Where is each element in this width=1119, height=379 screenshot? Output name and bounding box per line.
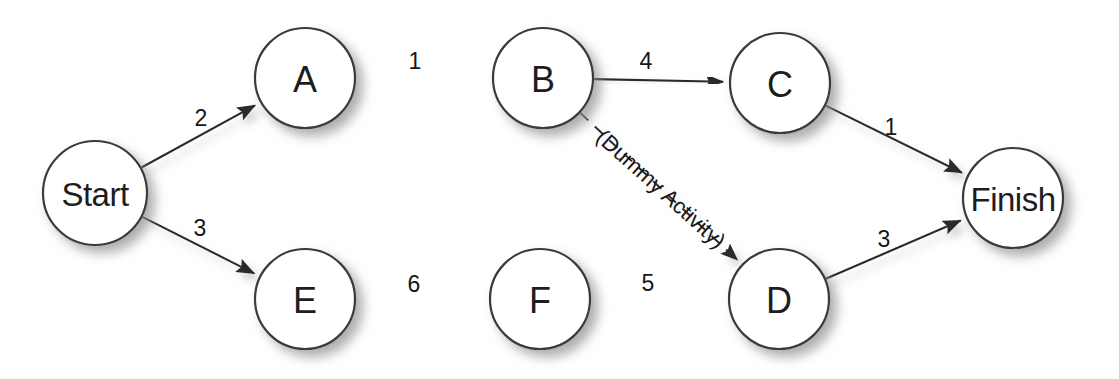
node-label-start: Start <box>61 176 129 213</box>
network-diagram: StartABCEFDFinish 21413653(Dummy Activit… <box>0 0 1119 379</box>
node-finish[interactable]: Finish <box>963 148 1063 248</box>
node-b[interactable]: B <box>493 28 593 128</box>
node-a[interactable]: A <box>255 28 355 128</box>
edge-label-f-d: 5 <box>642 270 655 296</box>
node-label-d: D <box>766 280 792 321</box>
node-e[interactable]: E <box>255 249 355 349</box>
node-label-finish: Finish <box>970 181 1055 218</box>
edge-line-b-c <box>594 79 723 82</box>
diagram-canvas: StartABCEFDFinish 21413653(Dummy Activit… <box>0 0 1119 379</box>
node-d[interactable]: D <box>729 249 829 349</box>
node-label-a: A <box>293 59 317 100</box>
node-label-c: C <box>767 64 793 105</box>
edge-label-b-c: 4 <box>640 48 653 74</box>
edge-label-start-e: 3 <box>194 215 207 241</box>
node-start[interactable]: Start <box>43 141 147 245</box>
edge-label-c-finish: 1 <box>885 114 898 140</box>
edge-b-c <box>594 79 723 82</box>
node-label-f: F <box>529 280 551 321</box>
edge-label-a-b: 1 <box>409 48 422 74</box>
edge-d-finish <box>826 221 961 279</box>
edge-label-b-d: (Dummy Activity) <box>591 125 730 254</box>
edge-label-e-f: 6 <box>408 271 421 297</box>
edge-label-start-a: 2 <box>195 105 208 131</box>
node-c[interactable]: C <box>730 33 830 133</box>
node-label-b: B <box>531 59 555 100</box>
edge-label-d-finish: 3 <box>878 226 891 252</box>
node-f[interactable]: F <box>490 249 590 349</box>
node-label-e: E <box>293 280 317 321</box>
edge-line-d-finish <box>826 221 961 279</box>
nodes-layer: StartABCEFDFinish <box>43 28 1063 349</box>
